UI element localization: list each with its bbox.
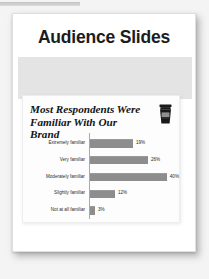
chart-bar-row: Moderately familiar 40% <box>23 170 179 184</box>
bar-value-label: 3% <box>98 208 105 213</box>
bar-category-label: Extremely familiar <box>23 141 89 146</box>
chart-bar-row: Extremely familiar 19% <box>23 136 179 150</box>
bar-category-label: Very familiar <box>23 158 89 163</box>
chart-bar-row: Not at all familiar 3% <box>23 204 179 218</box>
coffee-tumbler-icon <box>158 104 173 124</box>
bar-track: 26% <box>90 156 179 165</box>
chart-plot-area: Extremely familiar 19% Very familiar 26%… <box>23 132 179 222</box>
bar-track: 12% <box>90 190 179 199</box>
bar-track: 3% <box>90 206 179 215</box>
chart-bar-row: Slightly familiar 12% <box>23 187 179 201</box>
bar-category-label: Slightly familiar <box>23 191 89 196</box>
bar-value-label: 19% <box>136 141 145 146</box>
bar-value-label: 40% <box>170 175 179 180</box>
bar-track: 19% <box>90 139 179 148</box>
bar-category-label: Not at all familiar <box>23 208 89 213</box>
chart-bar-rows: Extremely familiar 19% Very familiar 26%… <box>23 132 179 222</box>
bar <box>90 156 148 165</box>
bar-track: 40% <box>90 173 179 182</box>
bar <box>90 206 95 215</box>
chart-bar-row: Very familiar 26% <box>23 153 179 167</box>
top-gray-strip <box>0 2 80 6</box>
slide-gray-band <box>18 57 192 99</box>
bar-value-label: 12% <box>118 191 127 196</box>
bar <box>90 173 167 182</box>
page-title: Audience Slides <box>13 27 195 48</box>
chart-panel: Most Respondents Were Familiar With Our … <box>22 95 180 223</box>
bar <box>90 190 115 199</box>
bar <box>90 139 133 148</box>
bar-category-label: Moderately familiar <box>23 175 89 180</box>
bar-value-label: 26% <box>151 158 160 163</box>
slide-card: Audience Slides Most Respondents Were Fa… <box>12 13 196 252</box>
